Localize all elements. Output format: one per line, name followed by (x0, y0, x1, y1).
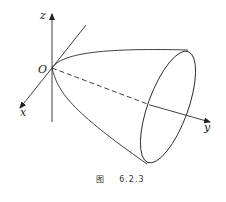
caption-prefix: 图 (96, 175, 105, 184)
x-axis (20, 68, 52, 108)
z-axis-label: z (40, 10, 46, 21)
paraboloid-lower-edge (52, 68, 147, 164)
paraboloid-diagram (0, 0, 226, 202)
caption-number: 6.2.3 (119, 175, 144, 184)
y-axis-label: y (204, 122, 210, 133)
origin-label: O (38, 64, 47, 75)
y-axis-hidden (52, 68, 150, 105)
x-axis-extension (52, 25, 86, 68)
y-axis (150, 105, 210, 122)
figure-canvas: z O x y 图 6.2.3 (0, 0, 226, 202)
x-axis-label: x (20, 107, 26, 118)
figure-caption: 图 6.2.3 (96, 173, 145, 184)
cross-section-ellipse (129, 45, 207, 170)
